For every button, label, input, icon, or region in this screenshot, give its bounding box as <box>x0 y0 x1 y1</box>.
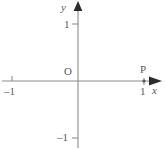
axes-drawing <box>0 0 165 150</box>
origin-label: O <box>64 66 72 77</box>
x-tick-label-negative-one: –1 <box>4 86 15 97</box>
y-tick-label-negative-one: –1 <box>57 132 68 143</box>
y-axis-arrow-icon <box>74 1 83 11</box>
x-tick-label-one: 1 <box>140 86 146 97</box>
coordinate-plane-figure: y x 1 –1 –1 1 O P <box>0 0 165 150</box>
y-tick-label-one: 1 <box>64 19 70 30</box>
point-p-label: P <box>140 64 146 75</box>
point-p-marker <box>142 79 145 82</box>
x-axis-label: x <box>152 85 157 96</box>
y-axis-label: y <box>61 2 66 13</box>
